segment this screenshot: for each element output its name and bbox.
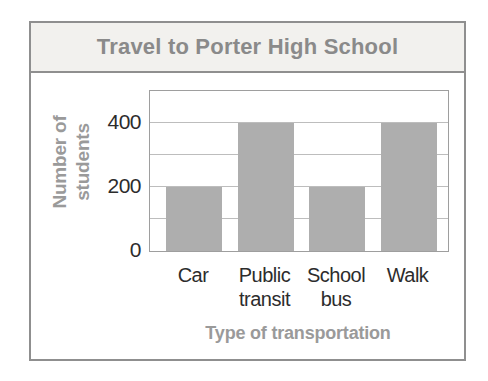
bar-public-transit — [238, 123, 294, 251]
chart-header: Travel to Porter High School — [31, 23, 464, 73]
y-tick-label-0: 0 — [89, 238, 141, 262]
bar-car — [166, 187, 222, 251]
figure-canvas: Travel to Porter High School Number of s… — [0, 0, 488, 381]
bar-school-bus — [309, 187, 365, 251]
x-axis-title: Type of transportation — [149, 323, 447, 344]
category-label-walk: Walk — [363, 263, 453, 287]
y-axis-title: Number of students — [49, 115, 95, 208]
chart-card: Travel to Porter High School Number of s… — [29, 21, 466, 361]
chart-title: Travel to Porter High School — [97, 34, 398, 60]
y-tick-label-400: 400 — [89, 110, 141, 134]
plot-area — [149, 90, 449, 252]
y-axis-title-line-1: Number of — [49, 115, 72, 208]
bar-walk — [381, 123, 437, 251]
y-tick-label-200: 200 — [89, 174, 141, 198]
